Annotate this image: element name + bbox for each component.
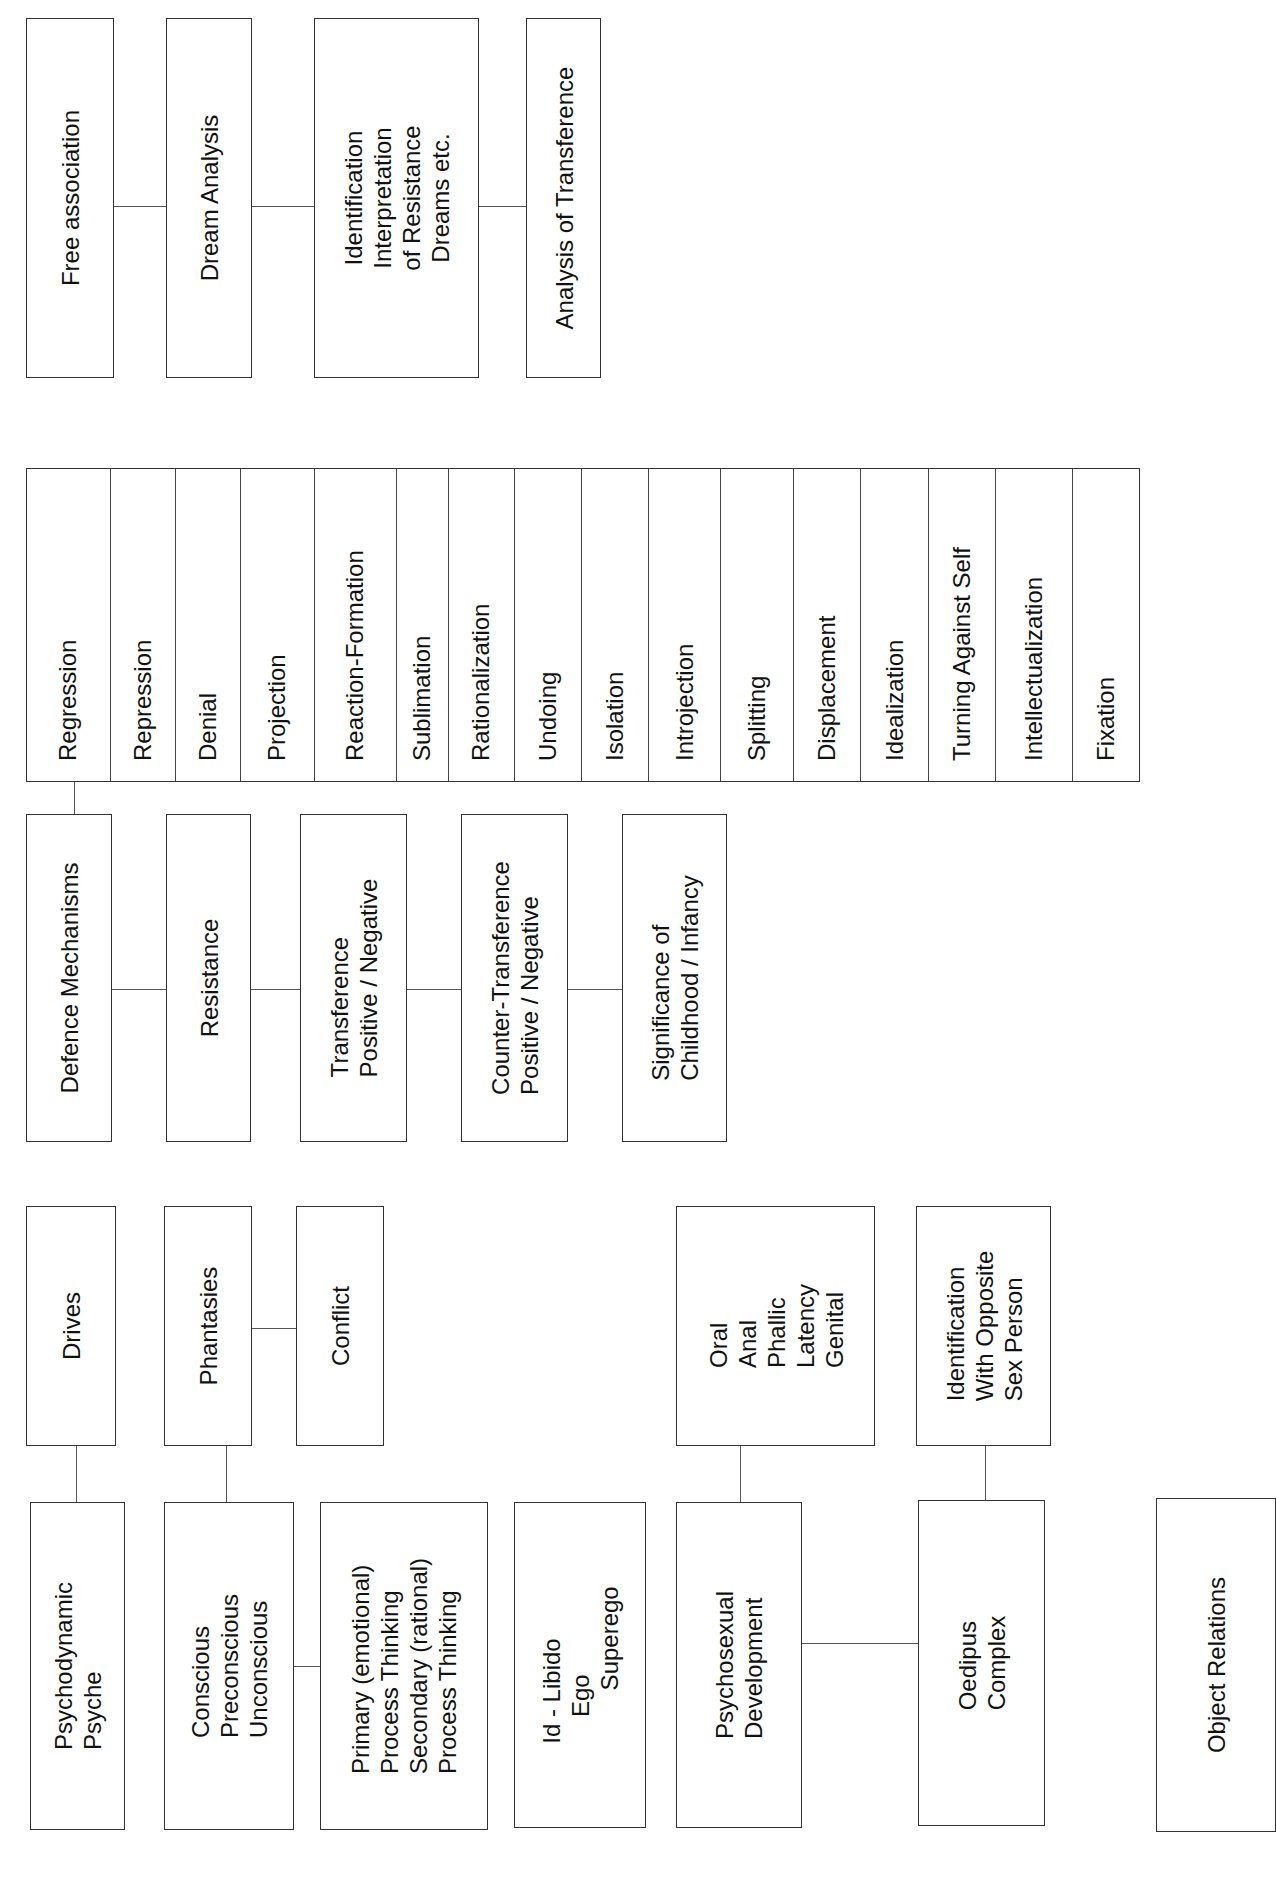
identification-opposite-sex-box: Identification With Opposite Sex Person (916, 1206, 1051, 1446)
phantasies-box: Phantasies (164, 1206, 252, 1446)
significance-childhood-label: Significance of Childhood / Infancy (646, 875, 704, 1080)
defence-item-label: Intellectualization (1019, 577, 1048, 761)
transference-label: Transference Positive / Negative (325, 879, 383, 1078)
defence-item: Sublimation (397, 469, 449, 781)
defence-item-label: Repression (128, 640, 157, 761)
defence-mechanisms-label: Defence Mechanisms (55, 863, 84, 1094)
defence-item: Fixation (1073, 469, 1139, 781)
levels-of-consciousness-box: Conscious Preconscious Unconscious (164, 1502, 294, 1830)
defence-mechanisms-list: Regression Repression Denial Projection … (26, 468, 1140, 782)
connector (294, 1666, 320, 1667)
connector (76, 1446, 77, 1502)
defence-item: Regression (27, 469, 111, 781)
oedipus-complex-label: Oedipus Complex (953, 1616, 1011, 1711)
object-relations-box: Object Relations (1156, 1498, 1276, 1832)
psychosexual-development-box: Psychosexual Development (676, 1502, 802, 1828)
conflict-label: Conflict (326, 1286, 355, 1366)
defence-item-label: Idealization (880, 640, 909, 761)
process-thinking-box: Primary (emotional) Process Thinking Sec… (320, 1502, 488, 1830)
resistance-label: Resistance (194, 919, 223, 1038)
defence-item-label: Denial (193, 693, 222, 761)
connector (568, 989, 622, 990)
defence-item: Rationalization (449, 469, 515, 781)
defence-item: Intellectualization (996, 469, 1073, 781)
identification-opposite-sex-label: Identification With Opposite Sex Person (940, 1251, 1027, 1402)
identification-interpretation-label: Identification Interpretation of Resista… (339, 125, 455, 270)
defence-item: Idealization (861, 469, 929, 781)
id-ego-superego-box: Id - Libido Ego Superego (514, 1502, 646, 1828)
connector (802, 1643, 918, 1644)
defence-item: Isolation (582, 469, 649, 781)
counter-transference-label: Counter-Transference Positive / Negative (486, 861, 544, 1095)
defence-item: Splitting (721, 469, 794, 781)
psychosexual-development-label: Psychosexual Development (710, 1591, 768, 1739)
free-association-label: Free association (56, 110, 85, 286)
defence-item-label: Introjection (670, 644, 699, 761)
connector (740, 1446, 741, 1502)
psychodynamic-psyche-box: Psychodynamic Psyche (30, 1502, 125, 1830)
connector (251, 989, 300, 990)
defence-item-label: Splitting (742, 676, 771, 761)
defence-item-label: Fixation (1091, 677, 1120, 761)
dream-analysis-label: Dream Analysis (195, 115, 224, 282)
connector (226, 1446, 227, 1502)
psychosexual-stages-box: Oral Anal Phallic Latency Genital (676, 1206, 875, 1446)
drives-box: Drives (26, 1206, 116, 1446)
psychodynamic-psyche-label: Psychodynamic Psyche (49, 1582, 107, 1750)
defence-item: Turning Against Self (929, 469, 996, 781)
connector (252, 1328, 296, 1329)
phantasies-label: Phantasies (194, 1267, 223, 1386)
defence-item: Undoing (515, 469, 583, 781)
defence-item-label: Regression (53, 640, 82, 761)
oedipus-complex-box: Oedipus Complex (918, 1500, 1045, 1826)
defence-item: Displacement (794, 469, 861, 781)
object-relations-label: Object Relations (1202, 1577, 1231, 1753)
conflict-box: Conflict (296, 1206, 384, 1446)
defence-item: Denial (176, 469, 241, 781)
connector (252, 206, 314, 207)
free-association-box: Free association (26, 18, 114, 378)
connector (407, 989, 461, 990)
significance-childhood-box: Significance of Childhood / Infancy (622, 814, 727, 1142)
drives-label: Drives (57, 1292, 86, 1360)
psychosexual-stages-label: Oral Anal Phallic Latency Genital (703, 1284, 848, 1368)
defence-item-label: Projection (262, 654, 291, 761)
analysis-of-transference-box: Analysis of Transference (526, 18, 601, 378)
defence-item-label: Isolation (600, 672, 629, 761)
resistance-box: Resistance (166, 814, 251, 1142)
levels-of-consciousness-label: Conscious Preconscious Unconscious (186, 1594, 273, 1738)
defence-item-label: Rationalization (466, 604, 495, 761)
dream-analysis-box: Dream Analysis (166, 18, 252, 378)
defence-item-label: Sublimation (407, 636, 436, 761)
identification-interpretation-box: Identification Interpretation of Resista… (314, 18, 479, 378)
defence-item-label: Undoing (533, 672, 562, 761)
connector (985, 1446, 986, 1500)
id-ego-superego-label: Id - Libido Ego Superego (537, 1586, 624, 1743)
defence-item: Introjection (649, 469, 721, 781)
defence-mechanisms-box: Defence Mechanisms (26, 814, 112, 1142)
transference-box: Transference Positive / Negative (300, 814, 407, 1142)
counter-transference-box: Counter-Transference Positive / Negative (461, 814, 568, 1142)
connector (74, 782, 75, 814)
defence-item-label: Displacement (812, 616, 841, 761)
defence-item: Reaction-Formation (315, 469, 397, 781)
defence-item: Projection (241, 469, 315, 781)
connector (479, 206, 526, 207)
connector (112, 989, 166, 990)
analysis-of-transference-label: Analysis of Transference (549, 67, 578, 330)
defence-item-label: Turning Against Self (947, 547, 976, 761)
defence-item-label: Reaction-Formation (340, 550, 369, 761)
defence-item: Repression (111, 469, 176, 781)
process-thinking-label: Primary (emotional) Process Thinking Sec… (346, 1558, 462, 1774)
connector (114, 206, 166, 207)
